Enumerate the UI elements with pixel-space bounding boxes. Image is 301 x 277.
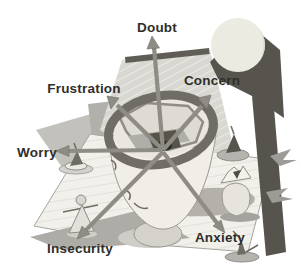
label-concern: Concern	[184, 73, 240, 88]
illustration-canvas	[0, 0, 301, 277]
illustration-stage: Doubt Frustration Concern Worry Insecuri…	[0, 0, 301, 277]
label-worry: Worry	[17, 145, 57, 160]
sun-disc-icon	[211, 18, 265, 72]
label-frustration: Frustration	[47, 81, 120, 96]
label-insecurity: Insecurity	[47, 241, 113, 256]
label-anxiety: Anxiety	[195, 230, 245, 245]
label-doubt: Doubt	[137, 20, 177, 35]
